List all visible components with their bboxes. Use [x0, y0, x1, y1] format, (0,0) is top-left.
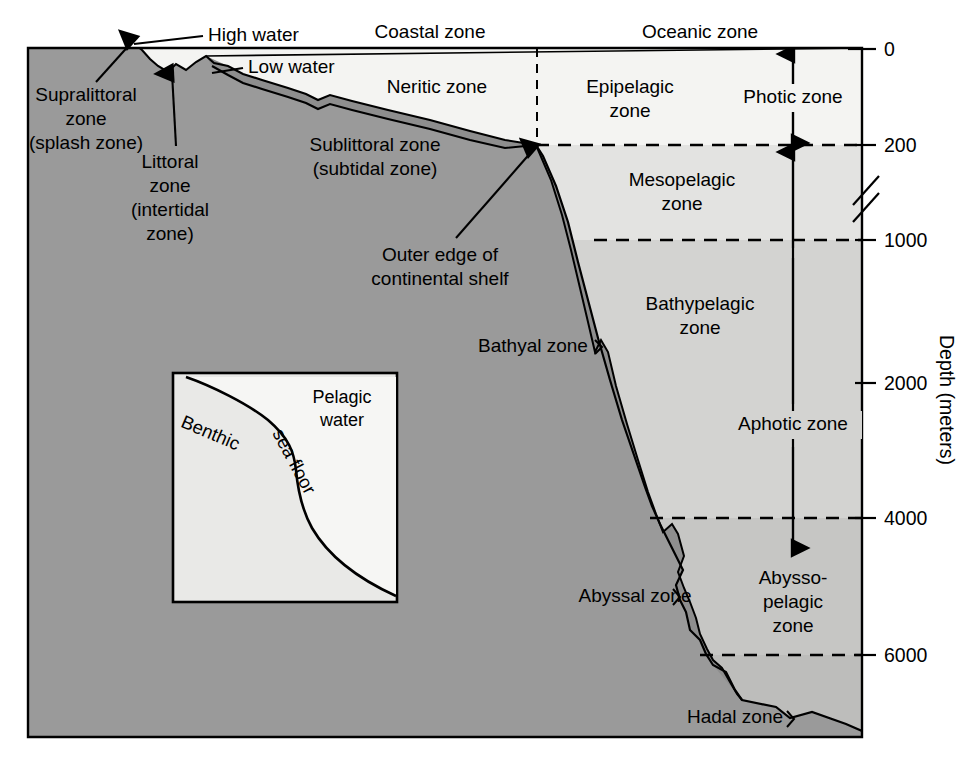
hadal-zone-label: Hadal zone [687, 706, 783, 727]
depth-tick-label-2000: 2000 [884, 372, 928, 394]
epipelagic-line-2: zone [609, 100, 650, 121]
abyssopelagic-line-3: zone [772, 615, 813, 636]
depth-tick-label-200: 200 [884, 134, 917, 156]
abyssopelagic-line-2: pelagic [763, 591, 823, 612]
outer-edge-line-2: continental shelf [371, 268, 509, 289]
littoral-line-3: (intertidal [131, 199, 209, 220]
oceanic-zone-label: Oceanic zone [642, 21, 758, 42]
aphotic-zone-label: Aphotic zone [738, 413, 848, 434]
depth-tick-label-6000: 6000 [884, 644, 928, 666]
pelagic-water-line-1: Pelagic [312, 387, 371, 407]
bathypelagic-line-1: Bathypelagic [646, 293, 755, 314]
littoral-line-1: Littoral [141, 151, 198, 172]
sublittoral-line-1: Sublittoral zone [310, 134, 441, 155]
high-water-label: High water [208, 24, 299, 45]
mesopelagic-line-2: zone [661, 193, 702, 214]
mesopelagic-line-1: Mesopelagic [629, 169, 736, 190]
bathypelagic-line-2: zone [679, 317, 720, 338]
diagram-body [28, 27, 862, 737]
depth-tick-label-4000: 4000 [884, 507, 928, 529]
diagram-canvas: 0 200 1000 2000 4000 6000 Depth (meters)… [0, 0, 964, 757]
depth-tick-label-1000: 1000 [884, 229, 928, 251]
pelagic-water-line-2: water [319, 410, 364, 430]
littoral-line-2: zone [149, 175, 190, 196]
ocean-zonation-diagram: 0 200 1000 2000 4000 6000 Depth (meters)… [0, 0, 964, 757]
epipelagic-line-1: Epipelagic [586, 76, 674, 97]
neritic-zone-label: Neritic zone [387, 76, 487, 97]
sublittoral-line-2: (subtidal zone) [313, 158, 438, 179]
supralittoral-line-3: (splash zone) [29, 132, 143, 153]
depth-tick-label-0: 0 [884, 38, 895, 60]
depth-axis-label: Depth (meters) [936, 335, 958, 465]
benthic-pelagic-inset: Pelagic water Benthic sea floor [173, 373, 397, 602]
supralittoral-line-1: Supralittoral [35, 84, 136, 105]
photic-zone-label: Photic zone [743, 86, 842, 107]
outer-edge-line-1: Outer edge of [382, 244, 499, 265]
low-water-label: Low water [248, 56, 335, 77]
bathyal-zone-label: Bathyal zone [478, 335, 588, 356]
supralittoral-line-2: zone [65, 108, 106, 129]
coastal-zone-label: Coastal zone [375, 21, 486, 42]
abyssopelagic-line-1: Abysso- [759, 567, 828, 588]
littoral-line-4: zone) [146, 223, 194, 244]
